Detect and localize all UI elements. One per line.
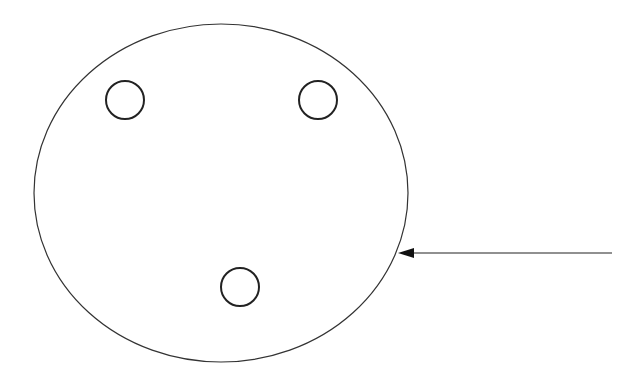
hole-top-left (106, 81, 144, 119)
hole-top-right (299, 81, 337, 119)
arrowhead-icon (398, 248, 414, 258)
outer-circle (34, 24, 408, 362)
diagram-canvas (0, 0, 634, 380)
hole-bottom (221, 268, 259, 306)
